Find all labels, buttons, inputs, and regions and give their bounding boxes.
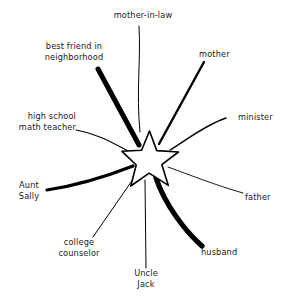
label-aunt-sally[interactable]: Aunt Sally <box>10 180 48 201</box>
connection-line-high-school-math-teacher <box>76 130 130 152</box>
connection-line-aunt-sally <box>47 166 133 190</box>
label-uncle-jack[interactable]: Uncle Jack <box>122 268 170 289</box>
label-best-friend-in-neighborhood[interactable]: best friend in neighborhood <box>28 41 120 62</box>
label-counselor-line1: college <box>64 237 94 247</box>
label-minister[interactable]: minister <box>238 112 290 123</box>
label-aunt-line2: Sally <box>19 191 39 201</box>
label-aunt-line1: Aunt <box>19 180 39 190</box>
label-teacher-line1: high school <box>28 111 76 121</box>
connection-line-father <box>168 167 243 193</box>
center-star-shape <box>122 131 179 186</box>
label-best-friend-line2: neighborhood <box>45 52 104 62</box>
label-uncle-line1: Uncle <box>134 268 158 278</box>
label-husband-line1: husband <box>201 247 237 257</box>
label-husband[interactable]: husband <box>201 247 259 258</box>
label-mother[interactable]: mother <box>199 49 259 60</box>
label-teacher-line2: math teacher <box>19 122 76 132</box>
relationship-star-diagram: mother-in-law best friend in neighborhoo… <box>0 0 290 305</box>
label-father[interactable]: father <box>245 192 290 203</box>
label-mother-in-law[interactable]: mother-in-law <box>98 10 188 21</box>
label-minister-line1: minister <box>238 112 273 122</box>
label-college-counselor[interactable]: college counselor <box>45 237 113 258</box>
label-best-friend-line1: best friend in <box>46 41 102 51</box>
connection-line-husband <box>156 178 202 246</box>
connection-line-best-friend-in-neighborhood <box>98 69 139 145</box>
connection-line-mother-in-law <box>138 26 140 132</box>
connection-line-uncle-jack <box>145 180 146 268</box>
label-mother-line1: mother <box>199 49 230 59</box>
label-high-school-math-teacher[interactable]: high school math teacher <box>4 111 76 132</box>
label-counselor-line2: counselor <box>58 248 99 258</box>
label-uncle-line2: Jack <box>137 279 154 289</box>
label-mother-in-law-line1: mother-in-law <box>114 10 173 20</box>
label-father-line1: father <box>245 192 271 202</box>
connection-line-minister <box>170 118 226 150</box>
